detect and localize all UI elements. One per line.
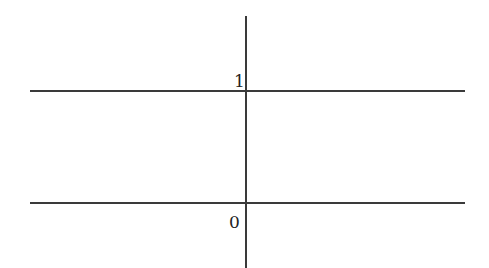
lower-level-label: 0 (229, 214, 240, 231)
upper-level-label: 1 (234, 73, 245, 90)
vertical-axis (245, 16, 247, 268)
upper-level-line (30, 90, 465, 92)
lower-level-line (30, 202, 465, 204)
